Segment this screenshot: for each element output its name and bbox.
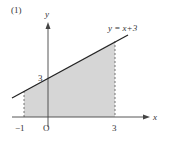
x-tick-3: 3 — [112, 123, 117, 133]
x-axis-arrow-icon — [143, 115, 150, 120]
y-axis-arrow-icon — [46, 22, 51, 29]
y-axis-label: y — [44, 9, 49, 19]
y-tick-3: 3 — [38, 73, 43, 83]
origin-label: O — [43, 123, 50, 133]
equation-label: y = x+3 — [107, 23, 138, 33]
problem-label: (1) — [11, 5, 22, 15]
graph: (1) y x y = x+3 3 −1 O 3 — [0, 0, 169, 141]
x-tick-neg1: −1 — [15, 123, 25, 133]
x-axis-label: x — [152, 112, 157, 122]
